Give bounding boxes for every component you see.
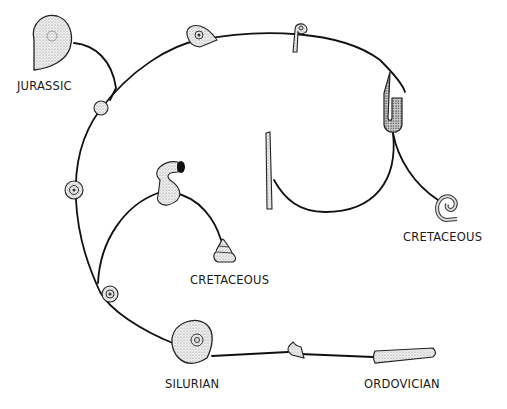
silurian-coiled-shell-icon	[172, 320, 212, 363]
label-jurassic: JURASSIC	[17, 79, 72, 93]
small-coiled-shell-lower-icon	[102, 286, 118, 302]
branch-straight-shell	[274, 133, 394, 212]
branch-jurassic	[74, 43, 116, 100]
evolution-diagram	[0, 0, 507, 409]
branch-left-arc	[76, 110, 175, 344]
hook-shell-top-icon	[293, 24, 307, 52]
branch-right-cretaceous	[393, 133, 438, 200]
small-coiled-shell-upper-icon	[94, 101, 108, 115]
cretaceous-uncoiled-spiral-icon	[437, 196, 457, 220]
label-cretaceous-right: CRETACEOUS	[403, 230, 482, 244]
straight-tapered-shell-icon	[266, 132, 272, 209]
label-silurian: SILURIAN	[165, 377, 219, 391]
ordovician-straight-cone-icon	[374, 348, 436, 363]
branch-inner-cretaceous	[98, 193, 221, 283]
top-coiled-shell-icon	[187, 26, 217, 48]
branch-lines	[74, 33, 438, 357]
s-shaped-shell-icon	[157, 161, 185, 205]
curved-shell-icon	[288, 342, 304, 358]
small-coiled-shell-mid-icon	[65, 181, 83, 199]
label-ordovician: ORDOVICIAN	[364, 377, 440, 391]
label-cretaceous-inner: CRETACEOUS	[190, 273, 269, 287]
turreted-helical-shell-icon	[214, 239, 236, 262]
branch-upper-arc	[100, 33, 405, 110]
jurassic-coiled-shell-icon	[33, 15, 71, 70]
